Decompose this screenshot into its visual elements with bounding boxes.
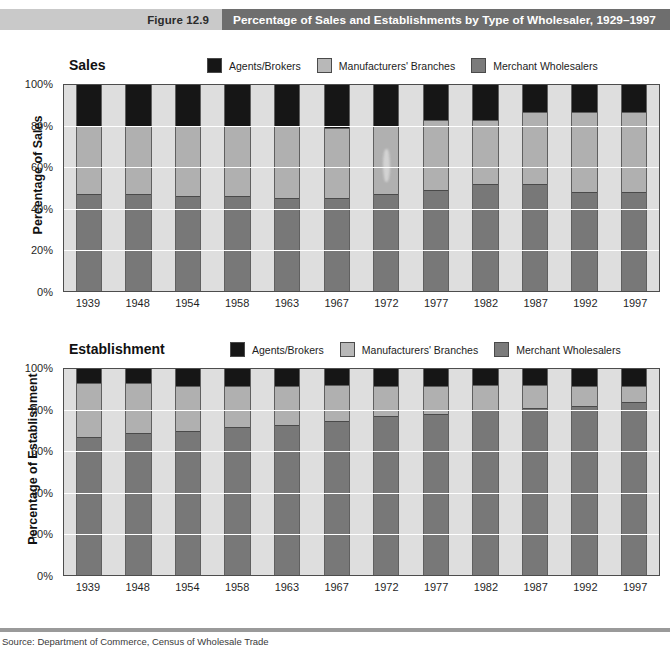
x-tick-label: 1977	[411, 297, 461, 309]
stacked-bar[interactable]	[175, 85, 201, 291]
bar-segment-manufacturers-branches	[176, 386, 200, 431]
stacked-bar[interactable]	[125, 369, 151, 575]
stacked-bar[interactable]	[324, 85, 350, 291]
bar-segment-agents-brokers	[176, 85, 200, 126]
bar-segment-manufacturers-branches	[374, 126, 398, 194]
stacked-bar[interactable]	[571, 85, 597, 291]
stacked-bar[interactable]	[621, 85, 647, 291]
bar-slot	[262, 369, 312, 575]
legend-label-branches: Manufacturers' Branches	[339, 60, 455, 72]
stacked-bar[interactable]	[373, 85, 399, 291]
bar-slot	[64, 369, 114, 575]
stacked-bar[interactable]	[373, 369, 399, 575]
bar-segment-agents-brokers	[374, 369, 398, 385]
stacked-bar[interactable]	[274, 85, 300, 291]
y-tick-label: 60%	[31, 445, 53, 457]
stacked-bar[interactable]	[324, 369, 350, 575]
stacked-bar[interactable]	[621, 369, 647, 575]
bar-segment-merchant-wholesalers	[275, 198, 299, 291]
x-tick-label: 1963	[262, 297, 312, 309]
bar-segment-manufacturers-branches	[77, 126, 101, 194]
bar-segment-merchant-wholesalers	[374, 416, 398, 575]
legend-item-merchant: Merchant Wholesalers	[471, 58, 597, 73]
y-tick-label: 0%	[37, 570, 53, 582]
bar-slot	[312, 369, 362, 575]
legend-label-agents: Agents/Brokers	[229, 60, 301, 72]
bar-slot	[213, 85, 263, 291]
legend-item-merchant: Merchant Wholesalers	[494, 342, 620, 357]
establishment-panel-title: Establishment	[69, 341, 165, 357]
legend-swatch-branches-icon	[340, 342, 355, 357]
stacked-bar[interactable]	[224, 85, 250, 291]
stacked-bar[interactable]	[175, 369, 201, 575]
y-tick-label: 0%	[37, 286, 53, 298]
sales-bar-group	[64, 85, 659, 291]
bar-slot	[609, 369, 659, 575]
stacked-bar[interactable]	[76, 85, 102, 291]
y-tick-label: 20%	[31, 244, 53, 256]
sales-legend: Agents/Brokers Manufacturers' Branches M…	[207, 58, 614, 73]
bar-segment-agents-brokers	[424, 369, 448, 385]
bar-segment-agents-brokers	[572, 369, 596, 385]
bar-segment-merchant-wholesalers	[325, 421, 349, 576]
bar-slot	[510, 369, 560, 575]
bar-segment-manufacturers-branches	[176, 126, 200, 196]
gridline	[64, 534, 659, 535]
x-tick-label: 1948	[113, 297, 163, 309]
stacked-bar[interactable]	[423, 85, 449, 291]
legend-swatch-branches-icon	[317, 58, 332, 73]
bar-segment-manufacturers-branches	[126, 383, 150, 432]
bar-segment-manufacturers-branches	[325, 128, 349, 198]
stacked-bar[interactable]	[274, 369, 300, 575]
legend-label-agents: Agents/Brokers	[252, 344, 324, 356]
bar-segment-merchant-wholesalers	[424, 190, 448, 291]
bar-segment-agents-brokers	[424, 85, 448, 120]
stacked-bar[interactable]	[571, 369, 597, 575]
bar-segment-agents-brokers	[77, 369, 101, 383]
bar-segment-merchant-wholesalers	[176, 196, 200, 291]
figure-title-band: Percentage of Sales and Establishments b…	[222, 9, 670, 30]
bar-segment-manufacturers-branches	[523, 385, 547, 408]
bar-segment-agents-brokers	[473, 85, 497, 120]
figure-number-band: Figure 12.9	[0, 9, 222, 30]
bar-segment-merchant-wholesalers	[523, 184, 547, 291]
stacked-bar[interactable]	[224, 369, 250, 575]
stacked-bar[interactable]	[472, 85, 498, 291]
bar-segment-agents-brokers	[523, 369, 547, 385]
sales-x-tick-labels: 1939194819541958196319671972197719821987…	[63, 297, 660, 309]
legend-item-agents: Agents/Brokers	[230, 342, 324, 357]
stacked-bar[interactable]	[522, 369, 548, 575]
bar-segment-merchant-wholesalers	[622, 192, 646, 291]
legend-item-agents: Agents/Brokers	[207, 58, 301, 73]
bar-segment-agents-brokers	[225, 369, 249, 385]
bar-segment-agents-brokers	[275, 85, 299, 126]
x-tick-label: 1982	[461, 581, 511, 593]
x-tick-label: 1958	[212, 297, 262, 309]
bar-slot	[114, 85, 164, 291]
bar-segment-manufacturers-branches	[325, 385, 349, 420]
bar-segment-agents-brokers	[126, 369, 150, 383]
bar-segment-agents-brokers	[523, 85, 547, 112]
x-tick-label: 1997	[610, 297, 660, 309]
x-tick-label: 1997	[610, 581, 660, 593]
stacked-bar[interactable]	[125, 85, 151, 291]
bar-segment-merchant-wholesalers	[225, 427, 249, 575]
bar-slot	[213, 369, 263, 575]
stacked-bar[interactable]	[472, 369, 498, 575]
gridline	[64, 209, 659, 210]
bar-segment-merchant-wholesalers	[572, 406, 596, 575]
legend-swatch-merchant-icon	[494, 342, 509, 357]
stacked-bar[interactable]	[423, 369, 449, 575]
y-tick-label: 100%	[25, 78, 53, 90]
bar-segment-merchant-wholesalers	[275, 425, 299, 575]
legend-swatch-merchant-icon	[471, 58, 486, 73]
x-tick-label: 1954	[163, 297, 213, 309]
gridline	[64, 250, 659, 251]
figure-header-band: Figure 12.9 Percentage of Sales and Esta…	[0, 9, 670, 30]
stacked-bar[interactable]	[76, 369, 102, 575]
gridline	[64, 451, 659, 452]
x-tick-label: 1958	[212, 581, 262, 593]
establishment-plot-area	[63, 368, 660, 576]
stacked-bar[interactable]	[522, 85, 548, 291]
establishment-y-tick-labels: 100%80%60%40%20%0%	[10, 368, 58, 576]
